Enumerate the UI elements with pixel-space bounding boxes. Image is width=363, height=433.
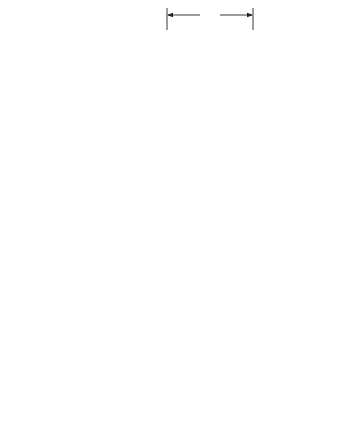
dimension-a [167, 8, 253, 30]
spin-lattice-figure [0, 0, 363, 433]
